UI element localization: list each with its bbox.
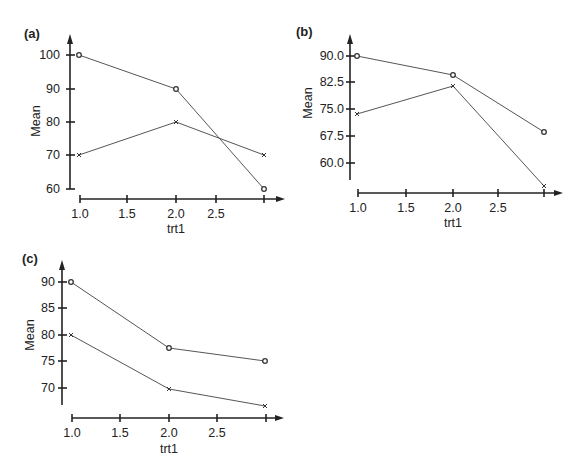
x-markers <box>69 333 267 408</box>
y-axis-arrow-icon <box>59 260 65 270</box>
chart-panel-c: (c) Mean 90 85 80 75 70 1.0 1.5 2.0 2.5 … <box>0 0 292 462</box>
x-markers <box>355 84 546 188</box>
circle-markers <box>355 54 547 135</box>
plot-area-c <box>0 0 292 462</box>
y-axis-arrow-icon <box>347 34 353 44</box>
x-axis-arrow-icon <box>554 190 563 196</box>
x-axis-arrow-icon <box>275 415 284 421</box>
circle-markers <box>69 280 268 364</box>
